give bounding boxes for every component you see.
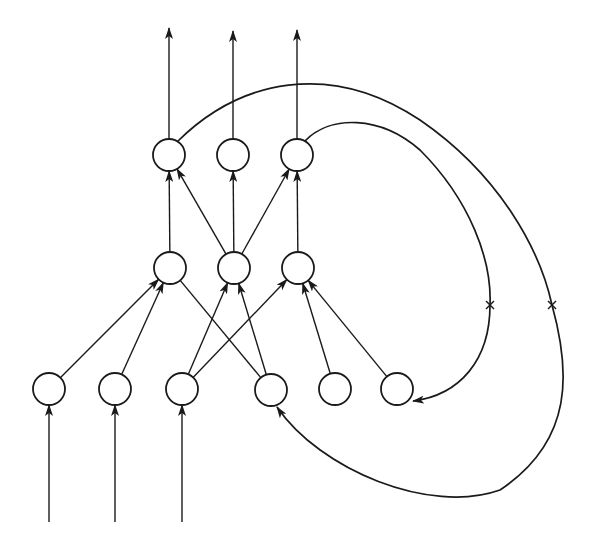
connection-i6-h3 xyxy=(308,280,387,376)
cut-marks-layer xyxy=(486,301,556,309)
connection-i5-h3 xyxy=(303,283,331,373)
output-node-o2 xyxy=(217,139,249,171)
input-node-i6 xyxy=(381,373,413,405)
input-node-i2 xyxy=(99,373,131,405)
nodes-layer xyxy=(33,139,413,406)
connection-h3-o3 xyxy=(297,171,298,252)
connection-i3-h3 xyxy=(193,280,287,378)
input-node-i4 xyxy=(255,374,287,406)
connection-i4-h1 xyxy=(180,280,261,377)
connection-h2-o1 xyxy=(177,169,226,254)
network-diagram xyxy=(0,0,593,548)
connection-i1-h1 xyxy=(60,279,158,377)
input-node-i5 xyxy=(319,373,351,405)
hidden-node-h3 xyxy=(282,252,314,284)
output-node-o1 xyxy=(153,139,185,171)
feedback-loop-o3-i6 xyxy=(305,123,490,401)
hidden-node-h2 xyxy=(218,252,250,284)
input-node-i3 xyxy=(166,373,198,405)
hidden-node-h1 xyxy=(154,252,186,284)
input-node-i1 xyxy=(33,373,65,405)
output-node-o3 xyxy=(281,139,313,171)
connection-h2-o2 xyxy=(233,171,234,252)
edges-layer xyxy=(49,28,387,522)
connection-i4-h2 xyxy=(239,283,267,374)
connection-h2-o3 xyxy=(242,169,289,254)
connection-h1-o1 xyxy=(169,171,170,252)
